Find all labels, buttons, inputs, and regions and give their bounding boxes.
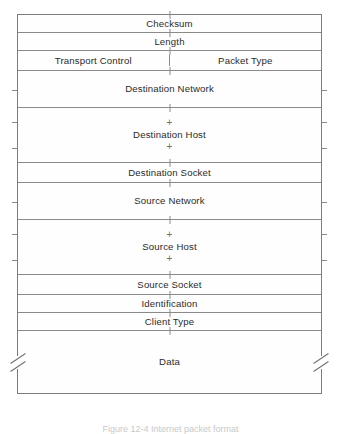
side-tick-left [12,90,17,91]
field-cell-packet-type: Packet Type [170,55,322,66]
break-mark-right-icon [310,347,332,377]
packet-header-table: Checksum Length Transport Control Packet… [17,14,322,394]
center-tick [169,67,170,75]
continuation-plus-icon: + [167,231,173,239]
side-tick-left [12,260,17,261]
field-label-destination-network: Destination Network [125,83,214,94]
field-row-data: Data [18,331,321,393]
center-tick [169,271,170,279]
center-tick [169,11,170,19]
field-label-client-type: Client Type [145,316,194,327]
side-tick-left [12,122,17,123]
center-tick [169,104,170,112]
field-label-destination-host: Destination Host [133,129,206,140]
side-tick-left [12,202,17,203]
center-tick [169,216,170,224]
side-tick-right [322,148,327,149]
field-label-source-host: Source Host [142,241,196,252]
side-tick-right [322,122,327,123]
side-tick-left [12,148,17,149]
field-label-packet-type: Packet Type [218,55,272,66]
field-row-destination-host: + Destination Host + [18,108,321,163]
field-label-length: Length [154,36,184,47]
field-label-checksum: Checksum [146,18,193,29]
center-tick [169,327,170,335]
continuation-plus-icon: + [167,143,173,151]
field-row-source-host: + Source Host + [18,220,321,275]
figure-caption: Figure 12-4 Internet packet format [0,424,341,434]
field-row-destination-network: Destination Network [18,71,321,108]
center-tick [169,159,170,167]
field-row-source-network: Source Network [18,183,321,220]
break-mark-left-icon [7,347,29,377]
center-tick [169,309,170,317]
side-tick-right [322,202,327,203]
continuation-plus-icon: + [167,119,173,127]
field-label-destination-socket: Destination Socket [128,167,211,178]
center-tick [169,179,170,187]
center-tick [169,29,170,37]
field-cell-transport-control: Transport Control [18,55,170,66]
field-label-identification: Identification [142,298,198,309]
field-label-data: Data [159,356,180,367]
side-tick-right [322,260,327,261]
center-tick [169,291,170,299]
field-label-source-network: Source Network [134,195,204,206]
side-tick-right [322,90,327,91]
continuation-plus-icon: + [167,255,173,263]
field-label-source-socket: Source Socket [137,279,201,290]
side-tick-left [12,234,17,235]
center-tick [169,47,170,55]
side-tick-right [322,234,327,235]
field-label-transport-control: Transport Control [55,55,132,66]
packet-format-figure: Checksum Length Transport Control Packet… [0,0,341,434]
